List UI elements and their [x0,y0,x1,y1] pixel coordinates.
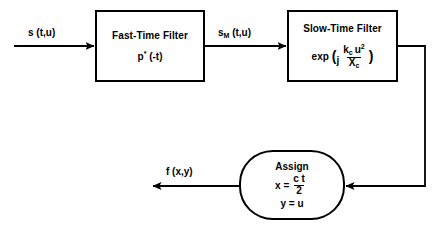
exp-label: exp [312,51,329,62]
assign-equation-x: x = c t 2 [275,174,309,196]
fraction-denominator: Xc [347,57,362,69]
imaginary-unit-j: j [336,55,339,69]
numerator-k-subscript: c [349,49,353,56]
input-signal-args: (t,u) [34,27,56,38]
label-output-signal: f (x,y) [166,167,193,177]
block-assign[interactable]: Assign x = c t 2 y = u [239,150,345,220]
slow-time-filter-formula: exp ( j kcu2 Xc ) [312,43,374,69]
formula-arg: (-t) [146,51,162,62]
intermediate-signal-args: (t,u) [229,27,251,38]
close-paren: ) [369,48,374,64]
assign-title: Assign [275,161,308,172]
fraction-numerator: kcu2 [341,43,366,56]
fast-time-filter-formula: p* (-t) [138,50,163,62]
block-slow-time-filter[interactable]: Slow-Time Filter exp ( j kcu2 Xc ) [287,10,398,82]
label-input-signal: s (t,u) [28,28,55,38]
exponent-fraction: kcu2 Xc [341,43,366,69]
assign-x-lhs: x = [275,180,289,191]
block-fast-time-filter[interactable]: Fast-Time Filter p* (-t) [95,10,205,82]
output-signal-args: (x,y) [169,166,192,177]
assign-x-numerator: c t [291,174,307,185]
assign-x-fraction: c t 2 [291,174,307,196]
denominator-X-subscript: c [355,62,359,69]
slow-time-filter-title: Slow-Time Filter [303,23,382,34]
assign-equation-y: y = u [280,198,303,209]
block-diagram-canvas: Fast-Time Filter p* (-t) Slow-Time Filte… [0,0,437,234]
assign-x-denominator: 2 [294,185,304,197]
fast-time-filter-title: Fast-Time Filter [112,30,188,41]
label-intermediate-signal: sM (t,u) [218,28,251,39]
numerator-u-exponent: 2 [361,43,365,50]
